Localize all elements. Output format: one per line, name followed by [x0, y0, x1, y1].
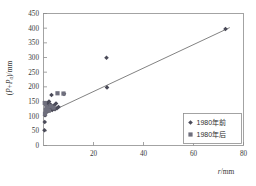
y-tick-label: 450: [28, 10, 39, 18]
x-axis-title: r/mm: [218, 167, 235, 176]
legend-label: 1980年前: [197, 118, 227, 127]
legend-box: [184, 114, 242, 144]
chart-legend: 1980年前1980年后: [184, 114, 242, 144]
scatter-chart: 050100150200250300350400450 20406080 (P+…: [0, 0, 256, 186]
legend-marker-square: [188, 132, 192, 136]
x-tick-label: 80: [240, 150, 248, 158]
y-tick-label: 50: [32, 127, 40, 135]
data-point: [51, 106, 55, 110]
y-tick-label: 150: [28, 98, 39, 106]
y-tick-label: 100: [28, 113, 39, 121]
y-tick-label: 400: [28, 25, 39, 33]
y-tick-label: 300: [28, 54, 39, 62]
data-point: [55, 91, 59, 95]
x-tick-label: 20: [90, 150, 98, 158]
chart-canvas: 050100150200250300350400450 20406080 (P+…: [0, 0, 256, 186]
y-tick-label: 0: [35, 142, 39, 150]
x-tick-label: 60: [190, 150, 198, 158]
data-point: [43, 101, 47, 105]
x-tick-label: 40: [140, 150, 148, 158]
y-tick-label: 200: [28, 83, 39, 91]
data-point: [47, 108, 51, 112]
data-point: [43, 112, 47, 116]
data-point: [61, 91, 65, 95]
y-tick-label: 250: [28, 69, 39, 77]
legend-label: 1980年后: [197, 130, 227, 139]
y-tick-label: 350: [28, 39, 39, 47]
